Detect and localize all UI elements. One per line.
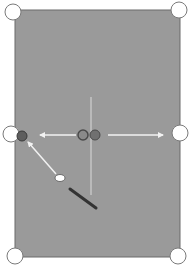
target-ball	[17, 131, 27, 141]
pool-table-diagram	[0, 0, 191, 267]
pocket-top-right	[171, 2, 187, 18]
pocket-side-left	[3, 126, 19, 142]
object-ball	[90, 130, 100, 140]
pocket-bottom-right	[170, 248, 186, 264]
ghost-ball	[78, 130, 88, 140]
pocket-bottom-left	[7, 248, 23, 264]
pocket-side-right	[172, 125, 188, 141]
cue-ball	[55, 175, 65, 182]
pocket-top-left	[5, 4, 21, 20]
